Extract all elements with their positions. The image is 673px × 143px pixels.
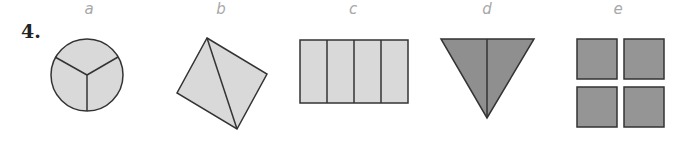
figures-canvas [0,0,673,143]
figure-a-circle [51,39,123,111]
figure-b-square [177,38,267,129]
figure-d-triangle [441,39,534,118]
figure-e-squares [577,39,664,127]
figure-c-rectangle [300,40,408,103]
